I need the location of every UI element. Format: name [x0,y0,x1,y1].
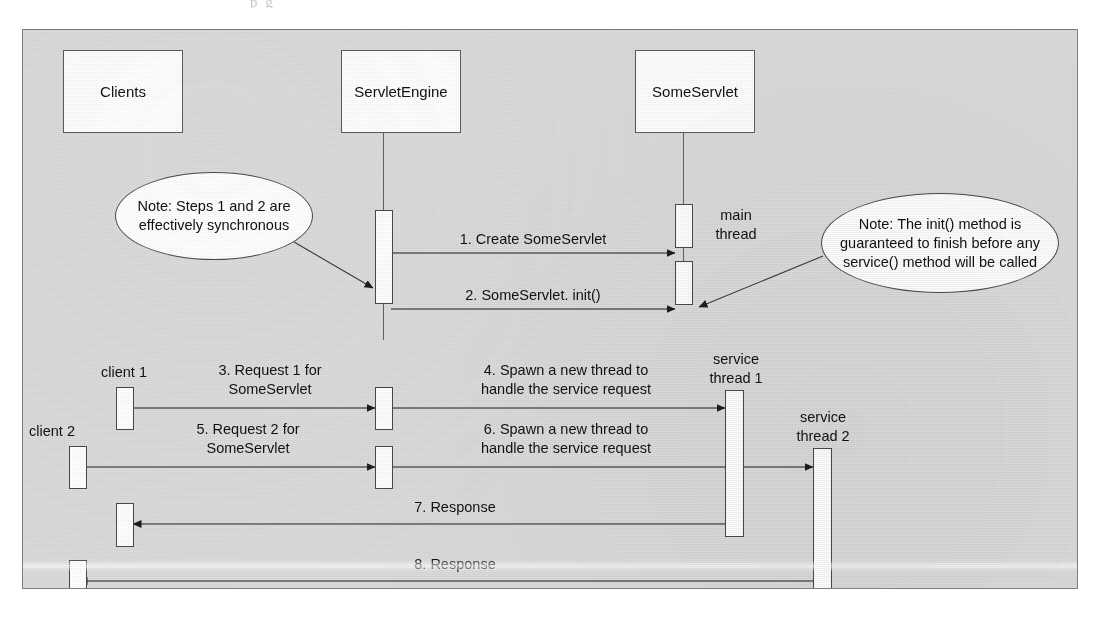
note-init[interactable]: Note: The init() method is guaranteed to… [821,193,1059,293]
figure-stage: p g [0,0,1102,617]
message-label-7: 7. Response [355,498,555,517]
activation-client-1-request [116,387,134,430]
activation-service-thread-2 [813,448,832,589]
label-client-1: client 1 [86,363,162,382]
activation-servletengine-request-1 [375,387,393,430]
activation-client-2-request [69,446,87,489]
participant-box-clients[interactable]: Clients [63,50,183,133]
activation-client-2-response [69,560,87,589]
message-label-2: 2. SomeServlet. init() [403,286,663,305]
participant-box-someservlet[interactable]: SomeServlet [635,50,755,133]
message-label-3: 3. Request 1 for SomeServlet [175,361,365,399]
activation-someservlet-create [675,204,693,248]
participant-label-clients: Clients [100,83,146,100]
message-label-8: 8. Response [355,555,555,574]
note-sync[interactable]: Note: Steps 1 and 2 are effectively sync… [115,172,313,260]
message-label-4: 4. Spawn a new thread to handle the serv… [435,361,697,399]
page-ghost-text: p g [0,0,1102,8]
leader-note-init [699,256,823,307]
participant-label-someservlet: SomeServlet [652,83,738,100]
activation-service-thread-1 [725,390,744,537]
activation-servletengine-init [375,210,393,304]
message-label-5: 5. Request 2 for SomeServlet [153,420,343,458]
leader-note-sync [294,242,373,288]
activation-client-1-response [116,503,134,547]
activation-someservlet-init [675,261,693,305]
participant-box-servletengine[interactable]: ServletEngine [341,50,461,133]
message-label-1: 1. Create SomeServlet [403,230,663,249]
label-client-2: client 2 [29,422,109,441]
label-service-thread-2: service thread 2 [783,408,863,446]
label-main-thread: main thread [699,206,773,244]
message-label-6: 6. Spawn a new thread to handle the serv… [435,420,697,458]
participant-label-servletengine: ServletEngine [354,83,447,100]
activation-servletengine-request-2 [375,446,393,489]
diagram-frame: Clients ServletEngine SomeServlet [22,29,1078,589]
label-service-thread-1: service thread 1 [696,350,776,388]
